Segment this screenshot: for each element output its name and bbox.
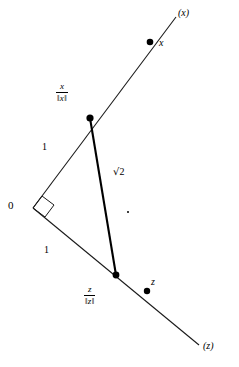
ray-z-label: (z) [203,341,214,351]
unit-vector-x-label: x ‖x‖ [56,81,68,104]
unit-vector-z-label: z ‖z‖ [84,284,95,307]
upper-leg-length-label: 1 [42,142,47,152]
hypotenuse-line [90,118,116,275]
unit-vector-z-point [113,272,120,279]
point-z-marker [144,288,150,294]
unit-vector-x-denominator: ‖x‖ [56,93,68,103]
ray-x-line [33,17,176,208]
hypotenuse-length-label: √2 [113,167,124,177]
diagram-canvas [0,0,239,367]
point-x-marker [147,39,154,46]
lower-leg-length-label: 1 [44,245,49,255]
point-x-label: x [159,38,163,48]
point-z-label: z [151,277,155,287]
unit-vector-x-numerator: x [56,81,68,91]
unit-vector-z-numerator: z [84,284,95,294]
norm-bar-right-icon: ‖ [64,93,67,103]
norm-bar-right-icon: ‖ [92,296,95,306]
unit-vector-x-point [86,114,93,121]
hypotenuse-length-value: 2 [119,166,124,177]
unit-vector-z-denominator: ‖z‖ [84,296,95,306]
stray-dot-mark [127,211,129,213]
origin-label: 0 [8,200,14,211]
right-angle-mark [33,196,54,217]
ray-x-label: (x) [178,8,189,18]
geometry-figure: (x) x x ‖x‖ 0 1 1 √2 z ‖z‖ z (z) [0,0,239,367]
